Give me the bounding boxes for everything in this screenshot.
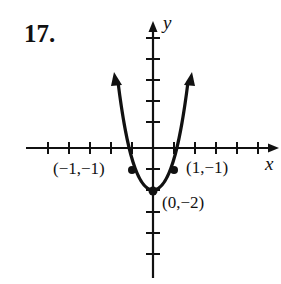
point-label-1-neg1: (1,−1) [186, 158, 228, 178]
point-neg1-neg1 [128, 166, 136, 174]
point-1-neg1 [170, 166, 178, 174]
coordinate-graph [0, 0, 281, 284]
y-axis-label: y [163, 12, 171, 34]
x-axis-label: x [265, 153, 273, 175]
y-axis-arrow-icon [149, 21, 158, 32]
point-label-neg1-neg1: (−1,−1) [53, 159, 105, 179]
point-0-neg2 [149, 187, 158, 196]
point-label-0-neg2: (0,−2) [162, 193, 204, 213]
curve-arrow-left-icon [111, 72, 122, 86]
x-axis-arrow-icon [268, 144, 279, 153]
curve-arrow-right-icon [184, 72, 195, 86]
